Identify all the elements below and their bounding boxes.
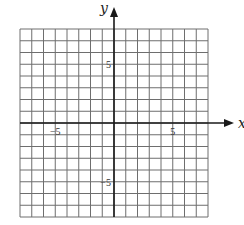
y-axis-arrow-icon xyxy=(110,7,118,17)
axes xyxy=(20,7,234,217)
y-tick-label: −5 xyxy=(100,177,111,188)
x-axis-label: x xyxy=(238,115,244,131)
x-tick-label: −5 xyxy=(50,126,61,137)
y-axis-label: y xyxy=(99,0,109,16)
x-axis-arrow-icon xyxy=(224,119,234,127)
coordinate-grid: −555−5 x y xyxy=(0,0,244,225)
y-tick-label: 5 xyxy=(106,59,111,70)
x-tick-label: 5 xyxy=(170,126,175,137)
